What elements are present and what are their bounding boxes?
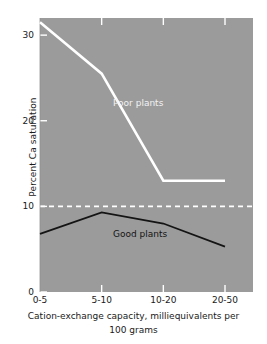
x-tick-label: 20-50 <box>212 295 238 305</box>
x-tick-label: 5-10 <box>91 295 111 305</box>
y-tick-label: 30 <box>12 30 34 40</box>
plot-area <box>0 0 267 344</box>
plot-background <box>40 18 253 292</box>
series-annotation-poor-plants: Poor plants <box>113 98 163 108</box>
x-tick-label: 10-20 <box>150 295 176 305</box>
y-axis-title: Percent Ca saturation <box>28 62 38 232</box>
x-axis-title-line1: Cation-exchange capacity, milliequivalen… <box>0 311 267 321</box>
chart-figure: 0 10 20 30 Percent Ca saturation 0-5 5-1… <box>0 0 267 344</box>
y-tick-label: 0 <box>12 287 34 297</box>
x-axis-title-line2: 100 grams <box>0 325 267 335</box>
series-annotation-good-plants: Good plants <box>113 229 167 239</box>
x-tick-label: 0-5 <box>33 295 48 305</box>
